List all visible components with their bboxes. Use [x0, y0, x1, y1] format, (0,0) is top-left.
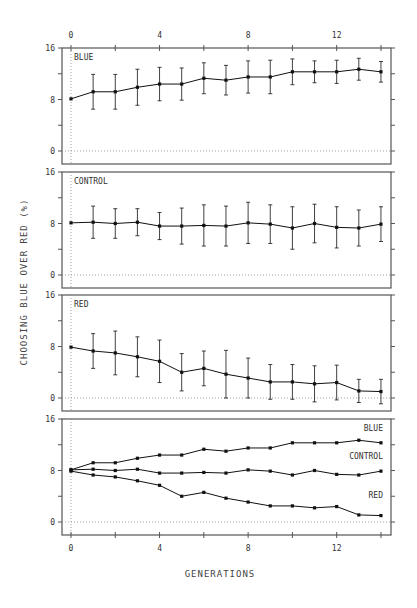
panels: 0816BLUE0816CONTROL0816RED0816BLUECONTRO…	[45, 44, 395, 535]
series-line-red	[71, 471, 381, 515]
x-tick-label: 8	[246, 544, 251, 553]
data-point	[202, 77, 205, 80]
data-point	[136, 221, 139, 224]
data-point	[202, 471, 205, 474]
data-point	[180, 224, 183, 227]
data-point	[180, 82, 183, 85]
x-axis-title: GENERATIONS	[185, 569, 256, 579]
data-point	[224, 497, 227, 500]
x-tick-label: 12	[332, 544, 342, 553]
y-tick-label: 16	[45, 291, 55, 300]
data-point	[335, 226, 338, 229]
data-point	[202, 224, 205, 227]
data-point	[69, 470, 72, 473]
x-tick-label: 4	[157, 544, 162, 553]
data-point	[379, 70, 382, 73]
data-point	[158, 484, 161, 487]
y-axis-title: CHOOSING BLUE OVER RED (%)	[19, 199, 29, 366]
data-point	[291, 380, 294, 383]
series-line-blue	[71, 440, 381, 470]
data-point	[114, 469, 117, 472]
data-point	[114, 351, 117, 354]
data-point	[335, 505, 338, 508]
data-point	[313, 469, 316, 472]
data-point	[224, 450, 227, 453]
data-point	[247, 75, 250, 78]
data-point	[269, 75, 272, 78]
data-point	[158, 360, 161, 363]
data-point	[291, 70, 294, 73]
data-point	[357, 473, 360, 476]
data-point	[92, 90, 95, 93]
data-point	[247, 500, 250, 503]
data-point	[357, 68, 360, 71]
y-tick-label: 16	[45, 168, 55, 177]
data-point	[313, 441, 316, 444]
data-point	[92, 221, 95, 224]
data-point	[114, 461, 117, 464]
panel-combined: 0816BLUECONTROLRED	[45, 415, 395, 535]
figure-chart: 04812 0816BLUE0816CONTROL0816RED0816BLUE…	[0, 0, 417, 608]
data-point	[92, 468, 95, 471]
x-tick-label: 0	[69, 31, 74, 40]
data-point	[379, 441, 382, 444]
data-point	[269, 223, 272, 226]
data-point	[313, 70, 316, 73]
data-point	[291, 226, 294, 229]
data-point	[291, 504, 294, 507]
series-annotation: BLUE	[364, 424, 383, 433]
data-point	[136, 479, 139, 482]
data-point	[335, 70, 338, 73]
data-point	[180, 453, 183, 456]
data-point	[269, 470, 272, 473]
data-point	[92, 349, 95, 352]
x-tick-label: 12	[332, 31, 342, 40]
data-point	[247, 446, 250, 449]
data-point	[335, 473, 338, 476]
data-point	[69, 97, 72, 100]
data-point	[269, 504, 272, 507]
x-tick-label: 4	[157, 31, 162, 40]
data-point	[357, 439, 360, 442]
y-tick-label: 8	[50, 467, 55, 476]
data-point	[158, 453, 161, 456]
data-point	[313, 506, 316, 509]
data-point	[335, 441, 338, 444]
panel-blue: 0816BLUE	[45, 44, 395, 164]
data-point	[247, 468, 250, 471]
data-point	[335, 381, 338, 384]
data-point	[379, 470, 382, 473]
data-point	[357, 226, 360, 229]
data-point	[224, 373, 227, 376]
data-point	[269, 380, 272, 383]
data-point	[180, 371, 183, 374]
panel-frame	[62, 172, 391, 288]
data-point	[180, 495, 183, 498]
series-annotation: CONTROL	[349, 452, 383, 461]
data-point	[158, 224, 161, 227]
data-point	[269, 446, 272, 449]
y-tick-label: 0	[50, 147, 55, 156]
data-point	[247, 376, 250, 379]
data-point	[158, 471, 161, 474]
x-tick-label: 8	[246, 31, 251, 40]
data-point	[92, 461, 95, 464]
y-tick-label: 0	[50, 518, 55, 527]
panel-label: BLUE	[74, 53, 93, 62]
data-point	[291, 441, 294, 444]
y-tick-label: 8	[50, 220, 55, 229]
data-point	[202, 491, 205, 494]
y-tick-label: 16	[45, 415, 55, 424]
data-point	[180, 471, 183, 474]
series-annotation: RED	[369, 491, 384, 500]
data-point	[313, 382, 316, 385]
data-point	[136, 468, 139, 471]
data-point	[114, 222, 117, 225]
data-point	[379, 514, 382, 517]
panel-label: RED	[74, 300, 89, 309]
y-tick-label: 0	[50, 271, 55, 280]
data-point	[379, 223, 382, 226]
data-point	[136, 457, 139, 460]
data-point	[92, 473, 95, 476]
data-point	[313, 222, 316, 225]
